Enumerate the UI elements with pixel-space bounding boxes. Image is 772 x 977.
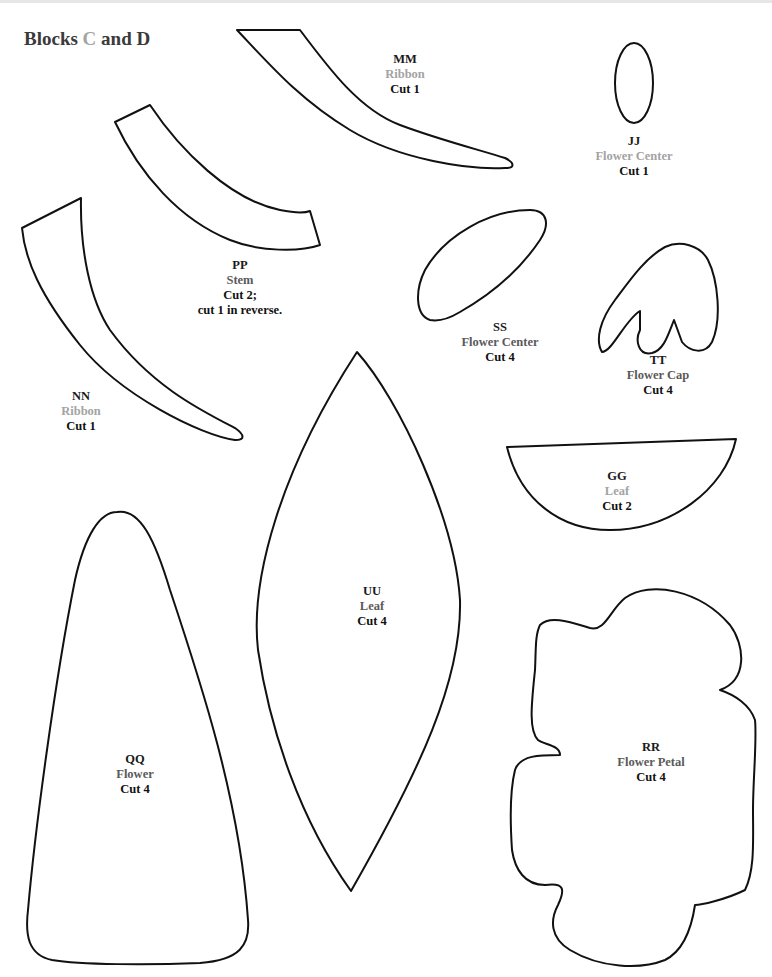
piece-code: MM [385,52,425,67]
piece-note: cut 1 in reverse. [198,303,282,318]
piece-code: SS [461,320,538,335]
piece-cut: Cut 4 [627,383,690,398]
piece-name: Flower Center [461,335,538,350]
label-qq: QQ Flower Cut 4 [116,752,153,797]
label-pp: PP Stem Cut 2; cut 1 in reverse. [198,258,282,318]
shape-qq-flower [27,512,248,965]
piece-name: Flower Center [595,149,672,164]
piece-cut: Cut 1 [61,419,101,434]
piece-code: UU [357,584,387,599]
piece-cut: Cut 4 [461,350,538,365]
label-nn: NN Ribbon Cut 1 [61,389,101,434]
piece-code: QQ [116,752,153,767]
shape-tt-flower-cap [599,244,718,353]
shape-pp-stem [115,105,320,250]
piece-name: Ribbon [61,404,101,419]
piece-cut: Cut 1 [385,82,425,97]
label-ss: SS Flower Center Cut 4 [461,320,538,365]
piece-cut: Cut 4 [357,614,387,629]
piece-name: Leaf [357,599,387,614]
piece-cut: Cut 2 [602,499,632,514]
piece-code: PP [198,258,282,273]
piece-name: Flower [116,767,153,782]
label-rr: RR Flower Petal Cut 4 [617,740,684,785]
shape-mm-ribbon [237,30,513,168]
piece-name: Stem [198,273,282,288]
label-tt: TT Flower Cap Cut 4 [627,353,690,398]
piece-name: Flower Cap [627,368,690,383]
shape-ss-flower-center [418,210,546,321]
piece-code: TT [627,353,690,368]
piece-name: Leaf [602,484,632,499]
label-gg: GG Leaf Cut 2 [602,469,632,514]
piece-name: Ribbon [385,67,425,82]
piece-code: RR [617,740,684,755]
piece-cut: Cut 2; [198,288,282,303]
piece-cut: Cut 4 [617,770,684,785]
shape-nn-ribbon [22,198,243,440]
piece-cut: Cut 4 [116,782,153,797]
label-jj: JJ Flower Center Cut 1 [595,134,672,179]
shape-jj-flower-center [615,43,653,123]
piece-code: JJ [595,134,672,149]
piece-name: Flower Petal [617,755,684,770]
piece-cut: Cut 1 [595,164,672,179]
label-mm: MM Ribbon Cut 1 [385,52,425,97]
piece-code: GG [602,469,632,484]
piece-code: NN [61,389,101,404]
label-uu: UU Leaf Cut 4 [357,584,387,629]
